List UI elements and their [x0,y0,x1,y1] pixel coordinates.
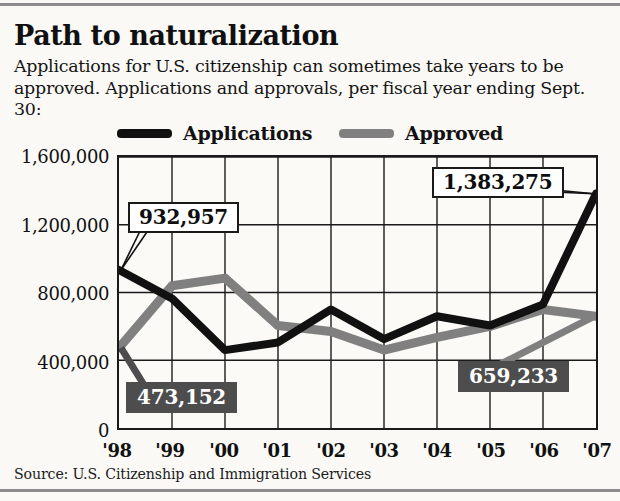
legend-label-applications: Applications [183,122,312,144]
callout-approved-1998: 473,152 [126,382,237,413]
x-tick-label: '98 [91,440,143,461]
source-note: Source: U.S. Citizenship and Immigration… [14,466,371,482]
callout-applications-2007: 1,383,275 [432,167,564,198]
legend-swatch-applications [117,129,172,138]
legend-label-approved: Approved [405,122,503,144]
callout-approved-2007: 659,233 [458,361,569,392]
page-title: Path to naturalization [14,20,338,51]
callout-leader [121,229,149,270]
x-tick-label: '00 [198,440,250,461]
y-tick-label: 1,200,000 [5,215,109,236]
y-tick-label: 0 [5,420,109,441]
y-tick-label: 400,000 [5,352,109,373]
callout-applications-1998: 932,957 [128,202,239,233]
callout-leader [121,229,141,270]
chart-legend: Applications Approved [117,122,537,146]
bottom-divider [0,489,620,492]
x-tick-label: '01 [251,440,303,461]
y-tick-label: 800,000 [5,283,109,304]
y-tick-label: 1,600,000 [5,146,109,167]
x-tick-label: '06 [518,440,570,461]
x-tick-label: '02 [305,440,357,461]
x-tick-label: '03 [358,440,410,461]
x-tick-label: '05 [465,440,517,461]
legend-item-approved: Approved [339,122,503,144]
x-tick-label: '04 [411,440,463,461]
x-tick-label: '07 [571,440,620,461]
x-tick-label: '99 [144,440,196,461]
legend-swatch-approved [339,129,394,138]
legend-item-applications: Applications [117,122,312,144]
top-divider [0,3,620,6]
chart-subtitle: Applications for U.S. citizenship can so… [14,56,610,121]
